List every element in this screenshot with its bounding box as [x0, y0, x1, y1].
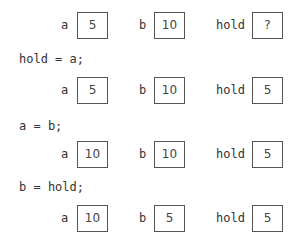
statement-3: b = hold;	[19, 179, 84, 195]
var-label-hold: hold	[216, 12, 245, 39]
var-label-a: a	[61, 141, 68, 168]
var-label-hold: hold	[216, 205, 245, 232]
statement-1: hold = a;	[19, 51, 84, 67]
var-box-b: 10	[154, 141, 185, 168]
var-box-a: 10	[77, 205, 108, 232]
var-box-a: 10	[77, 141, 108, 168]
var-box-b: 10	[154, 77, 185, 104]
var-label-b: b	[139, 141, 146, 168]
state-row-2: a 5 b 10 hold 5	[0, 77, 297, 104]
var-label-hold: hold	[216, 141, 245, 168]
var-label-b: b	[139, 12, 146, 39]
var-label-a: a	[61, 205, 68, 232]
var-label-b: b	[139, 205, 146, 232]
state-row-3: a 10 b 10 hold 5	[0, 141, 297, 168]
var-box-b: 5	[154, 205, 185, 232]
var-box-hold: 5	[252, 141, 283, 168]
var-box-hold: 5	[252, 205, 283, 232]
var-box-b: 10	[154, 12, 185, 39]
var-label-a: a	[61, 77, 68, 104]
state-row-initial: a 5 b 10 hold ?	[0, 12, 297, 39]
var-box-hold: ?	[252, 12, 283, 39]
var-box-hold: 5	[252, 77, 283, 104]
var-label-b: b	[139, 77, 146, 104]
var-box-a: 5	[77, 12, 108, 39]
var-label-hold: hold	[216, 77, 245, 104]
var-label-a: a	[61, 12, 68, 39]
state-row-final: a 10 b 5 hold 5	[0, 205, 297, 232]
var-box-a: 5	[77, 77, 108, 104]
statement-2: a = b;	[19, 118, 62, 134]
